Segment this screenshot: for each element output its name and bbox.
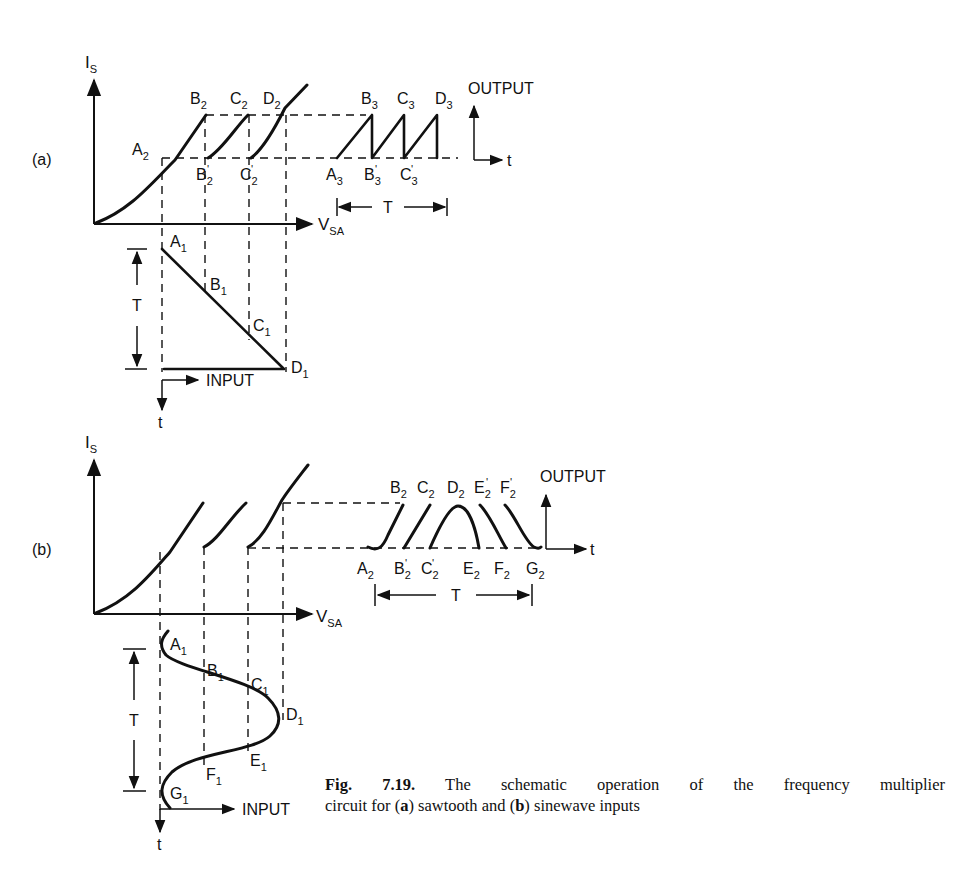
panel-b-x-label: VSA <box>316 607 343 629</box>
panel-b-output-piece-3 <box>430 506 479 548</box>
svg-text:': ' <box>510 476 512 488</box>
label-D3: D3 <box>435 90 453 111</box>
panel-a-x-label: VSA <box>318 215 345 237</box>
label-A3: A3 <box>326 166 343 187</box>
svg-text:': ' <box>432 557 434 569</box>
panel-b-output-piece-1 <box>368 505 403 549</box>
label-C3: C3 <box>397 90 415 111</box>
svg-text:': ' <box>405 557 407 569</box>
label-C2: C2 <box>230 90 248 111</box>
svg-text:': ' <box>375 163 377 175</box>
label-G2-out: G2 <box>526 560 545 581</box>
label-D2: D2 <box>263 90 281 111</box>
label-A1-b: A1 <box>170 636 187 657</box>
label-E2-out: E2 <box>463 560 480 581</box>
svg-text:': ' <box>207 163 209 175</box>
svg-text:': ' <box>251 163 253 175</box>
label-B3-prime: B3 <box>364 166 381 187</box>
panel-b-y-label: IS <box>85 433 97 455</box>
label-A1: A1 <box>170 233 187 254</box>
panel-a-label: (a) <box>32 151 52 168</box>
label-E1-b: E1 <box>250 752 267 773</box>
label-F2-prime: F2 <box>500 479 516 500</box>
label-A2: A2 <box>132 141 149 162</box>
panel-b-output-piece-2 <box>404 505 430 548</box>
frequency-multiplier-figure: IS VSA (a) A2 B2 C2 D2 B2 ' C2 ' B3 C3 D… <box>0 0 960 891</box>
panel-a-output-t-label: t <box>507 152 512 169</box>
panel-b-output-t-label: t <box>590 541 595 558</box>
panel-a: IS VSA (a) A2 B2 C2 D2 B2 ' C2 ' B3 C3 D… <box>32 53 534 431</box>
figure-number: Fig. 7.19. <box>325 775 415 794</box>
panel-b-input-label: INPUT <box>242 801 290 818</box>
panel-a-input-t-label: t <box>158 414 163 431</box>
panel-b-transfer-segment-2 <box>204 503 246 547</box>
label-B2-out: B2 <box>390 479 407 500</box>
panel-a-input-period: T <box>132 297 142 314</box>
label-D1-b: D1 <box>286 706 304 727</box>
svg-text:': ' <box>486 476 488 488</box>
label-G1-b: G1 <box>170 785 189 806</box>
panel-b-output-piece-5 <box>505 505 541 548</box>
label-F1-b: F1 <box>206 766 222 787</box>
figure-caption: Fig. 7.19. The schematic operation of th… <box>325 774 945 816</box>
label-D2-out: D2 <box>447 479 465 500</box>
label-E2-prime: E2 <box>474 479 491 500</box>
label-F2-out: F2 <box>494 560 510 581</box>
panel-b-output-piece-4 <box>480 505 506 548</box>
panel-a-y-label: IS <box>85 53 97 75</box>
svg-text:': ' <box>411 163 413 175</box>
panel-b-transfer-segment-3 <box>248 465 308 547</box>
diagram-canvas: IS VSA (a) A2 B2 C2 D2 B2 ' C2 ' B3 C3 D… <box>0 0 960 891</box>
label-B1: B1 <box>210 276 227 297</box>
panel-b-output-label: OUTPUT <box>540 468 606 485</box>
label-B2-prime: B2 <box>196 166 213 187</box>
label-B2: B2 <box>190 90 207 111</box>
label-C2-prime: C2 <box>240 166 258 187</box>
panel-a-input-label: INPUT <box>206 372 254 389</box>
label-A2-out: A2 <box>357 560 374 581</box>
panel-a-output-period: T <box>383 199 393 216</box>
panel-b-input-t-label: t <box>157 836 162 853</box>
panel-a-transfer-segment-2 <box>208 115 248 158</box>
label-B1-b: B1 <box>207 662 224 683</box>
panel-a-sawtooth-input <box>162 249 284 369</box>
label-D1: D1 <box>291 359 309 380</box>
panel-b-transfer-segment-1 <box>96 503 203 613</box>
panel-a-transfer-segment-3 <box>251 85 307 158</box>
panel-b-input-period: T <box>129 712 139 729</box>
label-B3: B3 <box>361 90 378 111</box>
panel-b-output-period: T <box>451 587 461 604</box>
label-C3-prime: C3 <box>400 166 418 187</box>
panel-b-label: (b) <box>32 541 52 558</box>
panel-a-sawtooth-output <box>337 115 437 158</box>
label-B2-prime-out: B2 <box>394 560 411 581</box>
label-C2-out: C2 <box>417 479 435 500</box>
label-C2-prime-out: C2 <box>421 560 439 581</box>
label-C1: C1 <box>253 317 271 338</box>
panel-a-output-label: OUTPUT <box>468 80 534 97</box>
panel-a-transfer-segment-1 <box>96 115 206 223</box>
label-C1-b: C1 <box>251 676 269 697</box>
